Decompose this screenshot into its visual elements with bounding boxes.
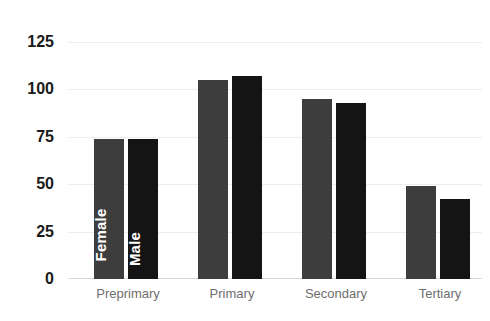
bar-group-secondary xyxy=(292,42,380,279)
bar-secondary-male[interactable] xyxy=(336,103,366,279)
x-tick-label-tertiary: Tertiary xyxy=(419,286,462,301)
bar-tertiary-female[interactable] xyxy=(406,186,436,279)
series-label-male: Male xyxy=(126,232,143,266)
bar-tertiary-male[interactable] xyxy=(440,199,470,279)
y-tick-label: 25 xyxy=(36,223,54,241)
y-tick-label: 0 xyxy=(45,270,54,288)
x-tick-label-primary: Primary xyxy=(210,286,255,301)
bar-secondary-female[interactable] xyxy=(302,99,332,279)
bar-primary-female[interactable] xyxy=(198,80,228,279)
bar-group-tertiary xyxy=(396,42,484,279)
y-tick-label: 125 xyxy=(27,33,54,51)
bar-preprimary-male[interactable]: Male xyxy=(128,139,158,279)
y-axis: 125 100 75 50 25 0 xyxy=(0,0,62,321)
bar-group-primary xyxy=(188,42,276,279)
bar-preprimary-female[interactable]: Female xyxy=(94,139,124,279)
x-tick-label-preprimary: Preprimary xyxy=(96,286,160,301)
bar-primary-male[interactable] xyxy=(232,76,262,279)
cropped-title-remnant xyxy=(62,0,142,5)
bar-chart: 125 100 75 50 25 0 Female Male xyxy=(0,0,490,321)
bar-group-preprimary: Female Male xyxy=(84,42,172,279)
y-tick-label: 50 xyxy=(36,175,54,193)
x-axis: Preprimary Primary Secondary Tertiary xyxy=(68,286,482,310)
x-tick-label-secondary: Secondary xyxy=(305,286,367,301)
series-label-female: Female xyxy=(92,209,109,262)
y-tick-label: 100 xyxy=(27,80,54,98)
y-tick-label: 75 xyxy=(36,128,54,146)
plot-area: Female Male xyxy=(68,42,482,279)
